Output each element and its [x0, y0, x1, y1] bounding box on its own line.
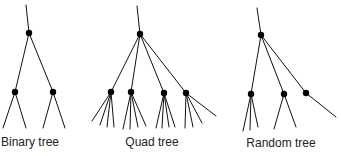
- tree-edge: [43, 92, 53, 128]
- root-stem: [26, 5, 29, 33]
- tree-edge: [274, 94, 284, 129]
- tree-edge: [186, 93, 202, 123]
- quad-tree: [92, 6, 216, 129]
- tree-edge: [261, 35, 284, 94]
- tree-edge: [164, 93, 169, 127]
- tree-edge: [140, 34, 186, 93]
- binary-tree-label: Binary tree: [1, 135, 59, 149]
- tree-node: [50, 89, 56, 95]
- tree-node: [108, 89, 114, 95]
- tree-edge: [306, 93, 336, 117]
- tree-node: [281, 91, 287, 97]
- tree-node: [12, 89, 18, 95]
- tree-node: [183, 90, 189, 96]
- binary-tree: [3, 5, 65, 128]
- quad-tree-label: Quad tree: [125, 135, 178, 149]
- tree-node: [303, 90, 309, 96]
- tree-edge: [15, 33, 29, 92]
- tree-edge: [15, 92, 26, 128]
- random-tree-label: Random tree: [246, 136, 315, 150]
- tree-node: [128, 89, 134, 95]
- tree-edge: [53, 92, 65, 128]
- tree-node: [248, 91, 254, 97]
- tree-edge: [3, 92, 15, 128]
- tree-edge: [140, 34, 164, 93]
- tree-edge: [111, 92, 114, 127]
- tree-edge: [131, 92, 138, 127]
- root-node: [26, 30, 32, 36]
- random-tree: [243, 8, 336, 131]
- root-stem: [137, 6, 140, 34]
- tree-diagram: [0, 0, 341, 156]
- tree-edge: [131, 92, 146, 126]
- tree-edge: [164, 93, 175, 127]
- root-stem: [257, 8, 261, 35]
- tree-edge: [251, 35, 261, 94]
- tree-edge: [185, 93, 186, 128]
- tree-node: [161, 90, 167, 96]
- tree-edge: [261, 35, 306, 93]
- tree-edge: [284, 94, 296, 127]
- root-node: [258, 32, 264, 38]
- tree-edge: [29, 33, 53, 92]
- tree-edge: [251, 94, 258, 127]
- root-node: [137, 31, 143, 37]
